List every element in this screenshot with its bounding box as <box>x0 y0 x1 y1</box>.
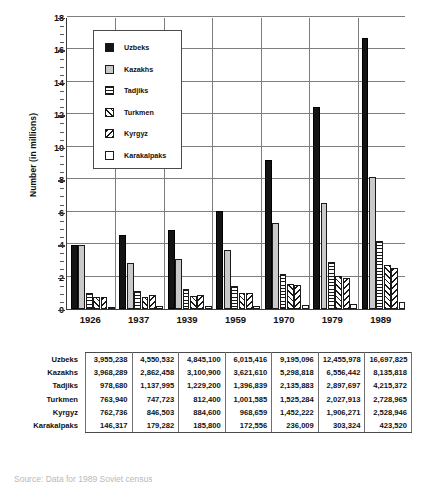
table-row-label: Tadjiks <box>12 379 86 392</box>
y-major-tick <box>58 115 65 116</box>
x-tick-label-1959: 1959 <box>225 314 246 325</box>
legend-item-kyrgyz: Kyrgyz <box>94 123 181 145</box>
bar-kazakhs-1979 <box>321 203 328 309</box>
table-cell-karakalpaks-1937: 179,282 <box>132 419 179 433</box>
table-row: Tadjiks978,6801,137,9951,229,2001,396,83… <box>12 379 412 392</box>
bar-tadjiks-1959 <box>231 286 238 309</box>
bar-uzbeks-1937 <box>119 235 126 309</box>
table-row: Uzbeks3,955,2384,550,5324,845,1006,015,4… <box>12 353 412 367</box>
table-cell-uzbeks-1939: 4,845,100 <box>179 353 226 367</box>
table-cell-kyrgyz-1939: 884,600 <box>179 406 226 419</box>
table-cell-karakalpaks-1939: 185,800 <box>179 419 226 433</box>
legend-label: Kazakhs <box>124 65 153 74</box>
bar-group <box>212 18 260 309</box>
legend-label: Turkmen <box>124 108 154 117</box>
legend-item-turkmen: Turkmen <box>94 102 181 124</box>
table-row: Karakalpaks146,317179,282185,800172,5562… <box>12 419 412 433</box>
bar-uzbeks-1939 <box>168 230 175 309</box>
table-cell-turkmen-1959: 1,001,585 <box>225 393 272 406</box>
y-major-tick <box>58 310 65 311</box>
legend-item-kazakhs: Kazakhs <box>94 59 181 81</box>
bar-karakalpaks-1970 <box>302 305 309 309</box>
table-cell-tadjiks-1970: 2,135,883 <box>272 379 319 392</box>
table-cell-karakalpaks-1989: 423,520 <box>365 419 412 433</box>
bar-kyrgyz-1989 <box>391 268 398 309</box>
table-cell-karakalpaks-1979: 303,324 <box>318 419 365 433</box>
y-major-tick <box>58 180 65 181</box>
bar-tadjiks-1979 <box>328 262 335 309</box>
bar-karakalpaks-1979 <box>350 304 357 309</box>
table-cell-uzbeks-1970: 9,195,096 <box>272 353 319 367</box>
table-cell-turkmen-1970: 1,525,284 <box>272 393 319 406</box>
bar-uzbeks-1970 <box>265 160 272 309</box>
table-cell-turkmen-1937: 747,723 <box>132 393 179 406</box>
bar-karakalpaks-1959 <box>253 306 260 309</box>
bar-tadjiks-1926 <box>86 293 93 309</box>
legend-label: Karakalpaks <box>124 151 166 160</box>
bar-karakalpaks-1937 <box>156 306 163 309</box>
y-major-tick <box>58 278 65 279</box>
table-cell-turkmen-1926: 763,940 <box>86 393 133 406</box>
population-table: Uzbeks3,955,2384,550,5324,845,1006,015,4… <box>12 352 412 433</box>
table-cell-kazakhs-1926: 3,968,289 <box>86 366 133 379</box>
table-cell-kyrgyz-1970: 1,452,222 <box>272 406 319 419</box>
bar-kazakhs-1926 <box>78 245 85 309</box>
table-cell-tadjiks-1979: 2,897,697 <box>318 379 365 392</box>
data-table: Uzbeks3,955,2384,550,5324,845,1006,015,4… <box>12 352 412 433</box>
table-row-label: Uzbeks <box>12 353 86 367</box>
legend-swatch-solid-gray-icon <box>105 65 114 74</box>
table-cell-kyrgyz-1989: 2,528,946 <box>365 406 412 419</box>
table-cell-tadjiks-1989: 4,215,372 <box>365 379 412 392</box>
bar-uzbeks-1926 <box>71 245 78 309</box>
table-cell-karakalpaks-1970: 236,009 <box>272 419 319 433</box>
bar-kyrgyz-1926 <box>101 297 108 309</box>
bar-turkmen-1926 <box>93 297 100 309</box>
bar-turkmen-1959 <box>239 293 246 309</box>
legend-swatch-white-empty-icon <box>105 151 114 160</box>
table-cell-kazakhs-1959: 3,621,610 <box>225 366 272 379</box>
table-row: Turkmen763,940747,723812,4001,001,5851,5… <box>12 393 412 406</box>
table-cell-kyrgyz-1979: 1,906,271 <box>318 406 365 419</box>
x-tick-label-1926: 1926 <box>80 314 101 325</box>
legend-item-uzbeks: Uzbeks <box>94 37 181 59</box>
bar-group <box>358 18 406 309</box>
legend-label: Uzbeks <box>124 43 149 52</box>
y-major-tick <box>58 83 65 84</box>
bar-tadjiks-1989 <box>376 241 383 309</box>
table-cell-uzbeks-1959: 6,015,416 <box>225 353 272 367</box>
legend-item-tadjiks: Tadjiks <box>94 80 181 102</box>
legend-swatch-horizontal-lines-icon <box>105 86 114 95</box>
bar-karakalpaks-1926 <box>108 307 115 309</box>
table-row-label: Kazakhs <box>12 366 86 379</box>
table-cell-kazakhs-1979: 6,556,442 <box>318 366 365 379</box>
legend-label: Kyrgyz <box>124 129 148 138</box>
table-row: Kyrgyz762,736846,503884,600968,6591,452,… <box>12 406 412 419</box>
y-major-tick <box>58 18 65 19</box>
bar-kazakhs-1970 <box>272 223 279 309</box>
x-tick-label-1939: 1939 <box>176 314 197 325</box>
legend-swatch-cross-hatch-icon <box>105 108 114 117</box>
y-major-tick <box>58 50 65 51</box>
legend-swatch-diagonal-lines-icon <box>105 129 114 138</box>
bar-tadjiks-1937 <box>134 291 141 309</box>
bar-turkmen-1939 <box>190 296 197 309</box>
bar-group <box>261 18 309 309</box>
bar-uzbeks-1979 <box>313 107 320 309</box>
table-row-label: Turkmen <box>12 393 86 406</box>
table-cell-uzbeks-1926: 3,955,238 <box>86 353 133 367</box>
table-cell-uzbeks-1937: 4,550,532 <box>132 353 179 367</box>
table-cell-karakalpaks-1959: 172,556 <box>225 419 272 433</box>
table-cell-tadjiks-1926: 978,680 <box>86 379 133 392</box>
x-tick-label-1970: 1970 <box>273 314 294 325</box>
bar-group <box>309 18 357 309</box>
table-cell-kazakhs-1937: 2,862,458 <box>132 366 179 379</box>
table-cell-uzbeks-1979: 12,455,978 <box>318 353 365 367</box>
table-cell-tadjiks-1959: 1,396,839 <box>225 379 272 392</box>
table-cell-tadjiks-1937: 1,137,995 <box>132 379 179 392</box>
table-cell-kazakhs-1939: 3,100,900 <box>179 366 226 379</box>
bar-turkmen-1970 <box>287 284 294 309</box>
bar-karakalpaks-1939 <box>205 306 212 309</box>
bar-kazakhs-1959 <box>224 250 231 309</box>
table-cell-kyrgyz-1959: 968,659 <box>225 406 272 419</box>
table-cell-tadjiks-1939: 1,229,200 <box>179 379 226 392</box>
